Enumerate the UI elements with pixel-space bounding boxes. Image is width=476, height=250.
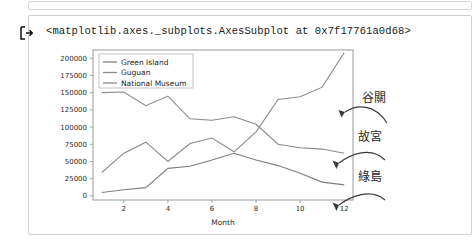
y-tick-label: 0: [83, 192, 87, 200]
chart-legend: Green IslandGuguanNational Museum: [99, 54, 193, 88]
y-tick-label: 100000: [60, 124, 87, 132]
y-axis-ticks: 0250005000075000100000125000150000175000…: [60, 55, 93, 201]
legend-label: Green Island: [121, 58, 169, 67]
notebook-output-cell[interactable]: <matplotlib.axes._subplots.AxesSubplot a…: [28, 15, 472, 235]
x-tick-label: 8: [254, 205, 258, 213]
arrow-guguan: [345, 107, 387, 123]
x-tick-label: 6: [210, 205, 215, 213]
output-repr-text: <matplotlib.axes._subplots.AxesSubplot a…: [46, 25, 411, 37]
y-tick-label: 175000: [60, 72, 87, 80]
x-tick-label: 2: [122, 205, 126, 213]
y-tick-label: 50000: [65, 158, 87, 166]
y-tick-label: 150000: [60, 89, 87, 97]
y-tick-label: 200000: [60, 55, 87, 63]
y-tick-label: 25000: [65, 175, 87, 183]
arrow-green-island: [339, 194, 385, 205]
notebook-cell-strip-above[interactable]: [28, 1, 472, 10]
annotation-arrows: [305, 46, 455, 216]
legend-label: Guguan: [121, 68, 151, 77]
y-tick-label: 75000: [65, 141, 87, 149]
output-arrow-icon: [19, 25, 35, 41]
x-axis-label: Month: [211, 218, 235, 227]
arrow-national-museum: [339, 152, 385, 163]
y-tick-label: 125000: [60, 106, 87, 114]
screenshot-root: <matplotlib.axes._subplots.AxesSubplot a…: [0, 0, 476, 250]
x-tick-label: 10: [296, 205, 305, 213]
legend-label: National Museum: [121, 79, 186, 88]
x-tick-label: 4: [166, 205, 171, 213]
